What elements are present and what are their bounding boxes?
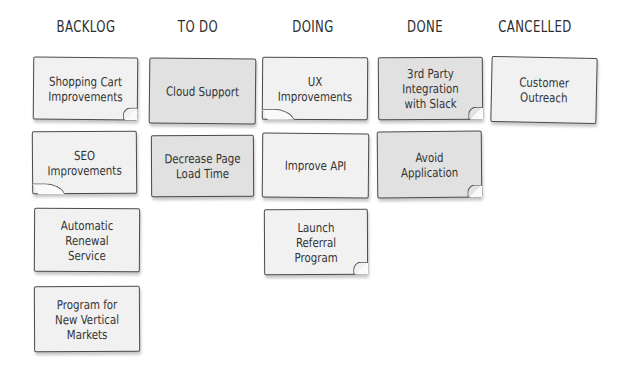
card-automatic-renewal[interactable]: Automatic Renewal Service — [34, 208, 140, 273]
column-title-doing: DOING — [270, 18, 356, 36]
card-slack-integration[interactable]: 3rd Party Integration with Slack — [378, 57, 483, 121]
card-cloud-support[interactable]: Cloud Support — [149, 57, 257, 124]
card-ux-improvements[interactable]: UX Improvements — [262, 57, 368, 121]
card-improve-api[interactable]: Improve API — [262, 133, 370, 199]
card-avoid-application[interactable]: Avoid Application — [377, 131, 483, 199]
card-shopping-cart[interactable]: Shopping Cart Improvements — [33, 57, 139, 121]
card-customer-outreach[interactable]: Customer Outreach — [490, 56, 597, 124]
column-title-todo: TO DO — [155, 18, 241, 36]
card-decrease-load-time[interactable]: Decrease Page Load Time — [151, 135, 254, 198]
card-vertical-markets[interactable]: Program for New Vertical Markets — [34, 286, 140, 353]
column-title-done: DONE — [382, 18, 468, 36]
card-seo[interactable]: SEO Improvements — [32, 131, 137, 195]
column-title-cancelled: CANCELLED — [492, 18, 578, 36]
column-title-backlog: BACKLOG — [43, 18, 129, 36]
card-launch-referral[interactable]: Launch Referral Program — [264, 209, 368, 276]
